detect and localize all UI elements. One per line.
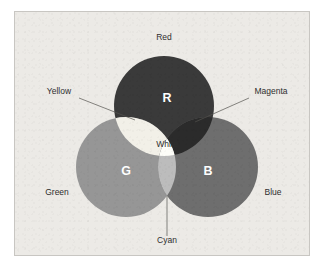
letter-green: G <box>121 164 131 178</box>
letter-blue: B <box>203 164 212 178</box>
venn-diagram: R G B White Red Yellow Magenta Green Blu… <box>15 12 310 256</box>
letter-red: R <box>162 91 171 105</box>
diagram-panel: R G B White Red Yellow Magenta Green Blu… <box>14 11 310 256</box>
figure-root: R G B White Red Yellow Magenta Green Blu… <box>0 0 323 267</box>
label-yellow: Yellow <box>47 86 72 96</box>
label-magenta: Magenta <box>254 86 287 96</box>
label-cyan: Cyan <box>157 235 177 245</box>
label-blue: Blue <box>264 187 281 197</box>
label-red: Red <box>156 32 172 42</box>
label-green: Green <box>45 187 69 197</box>
label-white: White <box>156 139 178 149</box>
